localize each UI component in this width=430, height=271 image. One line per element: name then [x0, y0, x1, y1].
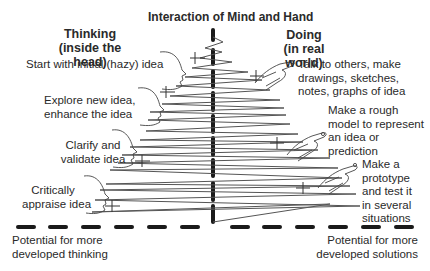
doing-footer: Potential for more developed solutions	[316, 234, 418, 261]
thinking-footer: Potential for more developed thinking	[12, 234, 108, 261]
thinking-heading-line1: Thinking	[46, 27, 134, 41]
thinking-step-1: Start with initial (hazy) idea	[26, 58, 163, 72]
doing-step-2: Make a rough model to represent an idea …	[328, 104, 424, 158]
doing-step-1: Talk to others, make drawings, sketches,…	[298, 58, 405, 99]
thinking-step-3: Clarify and validate idea	[60, 139, 126, 166]
diagram-title: Interaction of Mind and Hand	[148, 10, 313, 24]
thinking-step-4: Critically appraise idea	[22, 184, 84, 211]
thinking-step-2: Explore new idea, enhance the idea	[44, 94, 130, 121]
doing-step-3: Make a prototype and test it in several …	[362, 158, 412, 226]
doing-heading-line1: Doing	[268, 28, 340, 42]
